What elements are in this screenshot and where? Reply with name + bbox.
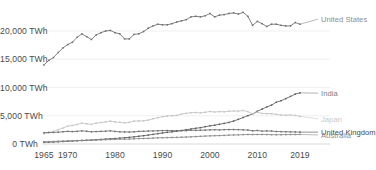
series-marker (195, 16, 197, 18)
series-marker (162, 137, 164, 139)
series-marker (62, 47, 64, 49)
series-marker (247, 111, 249, 113)
series-marker (171, 23, 173, 25)
series-marker (67, 131, 69, 133)
series-leader-line (300, 134, 318, 135)
series-marker (195, 130, 197, 132)
series-marker (228, 129, 230, 131)
y-axis-tick-label: 10,000 TWh (0, 83, 38, 93)
series-marker (252, 134, 254, 136)
series-marker (271, 130, 273, 132)
series-marker (219, 129, 221, 131)
series-marker (209, 13, 211, 15)
series-marker (129, 122, 131, 124)
series-marker (276, 134, 278, 136)
series-marker (86, 123, 88, 125)
x-axis-tick-label: 1965 (34, 150, 54, 160)
series-marker (105, 139, 107, 141)
series-marker (181, 20, 183, 22)
series-marker (185, 136, 187, 138)
series-marker (100, 122, 102, 124)
series-marker (176, 130, 178, 132)
series-label-japan: Japan (321, 114, 342, 123)
series-marker (280, 131, 282, 133)
series-marker (105, 121, 107, 123)
series-marker (86, 131, 88, 133)
series-marker (233, 129, 235, 131)
series-marker (200, 112, 202, 114)
series-marker (76, 140, 78, 142)
series-marker (242, 117, 244, 119)
series-marker (276, 23, 278, 25)
series-marker (152, 137, 154, 139)
series-marker (223, 135, 225, 137)
series-marker (133, 138, 135, 140)
series-marker (143, 135, 145, 137)
series-marker (181, 136, 183, 138)
series-marker (257, 134, 259, 136)
series-marker (204, 112, 206, 114)
series-marker (280, 25, 282, 27)
series-marker (138, 33, 140, 35)
series-marker (86, 36, 88, 38)
series-marker (257, 112, 259, 114)
series-marker (48, 132, 50, 134)
series-marker (129, 138, 131, 140)
series-marker (53, 141, 55, 143)
series-marker (181, 130, 183, 132)
x-axis-tick-label: 1990 (153, 150, 173, 160)
series-marker (100, 139, 102, 141)
series-marker (190, 130, 192, 132)
series-marker (148, 119, 150, 121)
series-marker (209, 135, 211, 137)
series-marker (143, 120, 145, 122)
series-marker (280, 100, 282, 102)
series-marker (124, 131, 126, 133)
series-marker (171, 115, 173, 117)
series-marker (214, 129, 216, 131)
series-marker (114, 32, 116, 34)
series-marker (152, 130, 154, 132)
series-marker (276, 114, 278, 116)
series-marker (223, 129, 225, 131)
series-marker (261, 113, 263, 115)
series-marker (285, 131, 287, 133)
series-marker (242, 134, 244, 136)
y-axis-tick-label: 20,000 TWh (0, 26, 38, 36)
series-marker (72, 131, 74, 133)
series-marker (195, 128, 197, 130)
series-marker (266, 113, 268, 115)
series-marker (204, 15, 206, 17)
series-marker (148, 138, 150, 140)
series-marker (43, 141, 45, 143)
series-marker (176, 115, 178, 117)
series-marker (67, 140, 69, 142)
series-marker (195, 112, 197, 114)
series-marker (276, 102, 278, 104)
series-marker (238, 129, 240, 131)
series-marker (204, 126, 206, 128)
series-marker (290, 131, 292, 133)
series-leader-line (300, 19, 318, 24)
series-marker (242, 12, 244, 14)
series-marker (219, 111, 221, 113)
series-marker (133, 34, 135, 36)
series-label-india: India (321, 89, 338, 98)
series-marker (138, 136, 140, 138)
x-axis-tick-label: 1980 (105, 150, 125, 160)
series-marker (95, 131, 97, 133)
series-marker (219, 124, 221, 126)
series-marker (167, 24, 169, 26)
y-axis-tick-label: 15,000 TWh (0, 54, 38, 64)
series-marker (76, 124, 78, 126)
series-marker (261, 108, 263, 110)
series-marker (266, 134, 268, 136)
series-marker (157, 133, 159, 135)
series-marker (280, 134, 282, 136)
series-marker (133, 120, 135, 122)
y-axis-tick-label: 5,000 TWh (0, 111, 38, 121)
x-axis-tick-label: 2019 (290, 150, 310, 160)
series-marker (157, 23, 159, 25)
series-marker (176, 21, 178, 23)
